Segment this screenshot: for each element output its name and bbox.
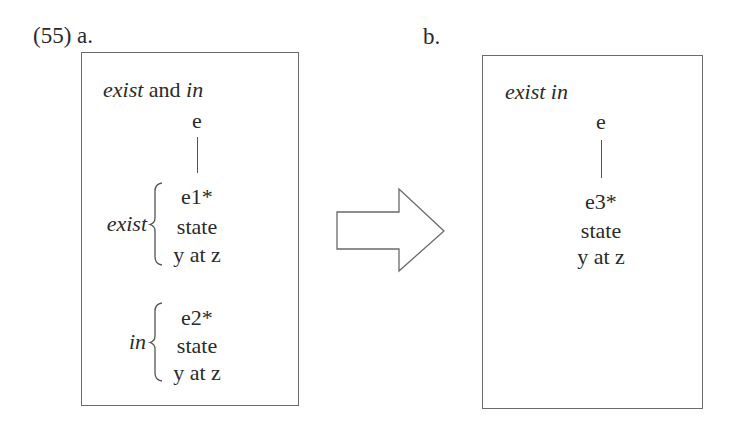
- panel-b-title: exist in: [505, 81, 568, 103]
- panel-b-node-state: state: [541, 220, 661, 242]
- panel-b-root-connector: [601, 140, 602, 178]
- panel-b-node-location: y at z: [541, 246, 661, 268]
- panel-b-node-e3: e3*: [541, 191, 661, 213]
- panel-b-root-node: e: [541, 111, 661, 133]
